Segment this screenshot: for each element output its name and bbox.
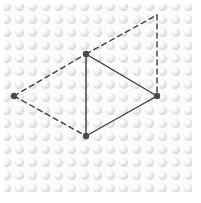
vertex-marker-right (154, 93, 160, 99)
vertex-marker-bottom (83, 133, 89, 139)
dimple-texture-layer (0, 0, 201, 203)
vertex-marker-top (83, 51, 89, 57)
geometry-figure-svg (0, 0, 201, 203)
vertex-marker-left (11, 93, 17, 99)
figure-canvas (0, 0, 201, 203)
